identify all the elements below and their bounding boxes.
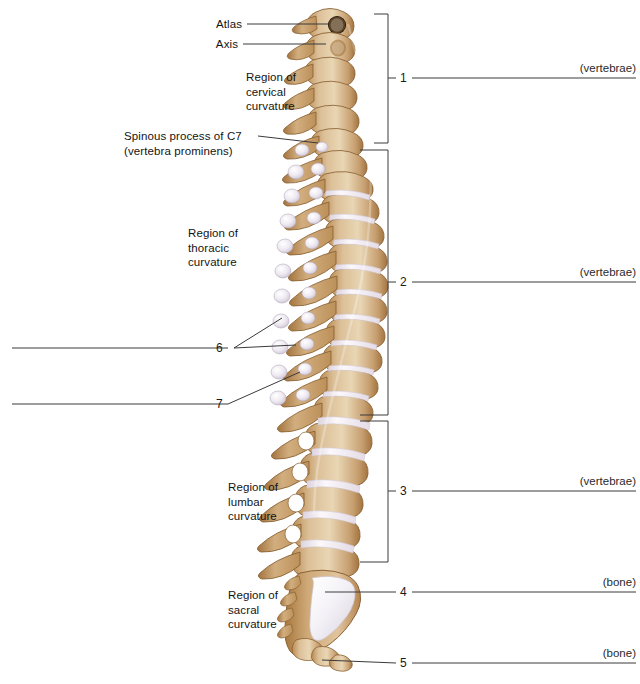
hint-2-vertebrae: (vertebrae) <box>500 266 636 278</box>
label-sacral-line2: sacral <box>228 603 278 618</box>
label-sacral-curvature: Region of sacral curvature <box>228 588 278 632</box>
label-sacral-line1: Region of <box>228 588 278 603</box>
sacrum-coccyx <box>277 570 360 671</box>
label-lumbar-line1: Region of <box>228 480 278 495</box>
hint-5-bone: (bone) <box>500 647 636 659</box>
callout-number-5[interactable]: 5 <box>400 657 407 669</box>
label-sacral-line3: curvature <box>228 617 278 632</box>
callout-number-7[interactable]: 7 <box>216 398 223 410</box>
label-lumbar-line3: curvature <box>228 509 278 524</box>
callout-number-4[interactable]: 4 <box>400 586 407 598</box>
label-atlas: Atlas <box>150 17 242 32</box>
label-cervical-line1: Region of <box>246 70 296 85</box>
callout-number-2[interactable]: 2 <box>400 276 407 288</box>
callout-number-1[interactable]: 1 <box>400 72 407 84</box>
label-thoracic-line3: curvature <box>188 255 238 270</box>
label-cervical-line3: curvature <box>246 99 296 114</box>
label-spinous-process-c7: Spinous process of C7 (vertebra prominen… <box>124 129 258 158</box>
label-axis: Axis <box>150 37 238 52</box>
hint-4-bone: (bone) <box>500 576 636 588</box>
figure-canvas: Atlas Axis Region of cervical curvature … <box>0 0 640 684</box>
label-c7-line1: Spinous process of C7 <box>124 129 258 144</box>
label-thoracic-line1: Region of <box>188 226 238 241</box>
label-thoracic-line2: thoracic <box>188 241 238 256</box>
label-thoracic-curvature: Region of thoracic curvature <box>188 226 238 270</box>
bracket-1 <box>374 14 388 143</box>
callout-number-6[interactable]: 6 <box>216 342 223 354</box>
label-lumbar-curvature: Region of lumbar curvature <box>228 480 278 524</box>
hint-3-vertebrae: (vertebrae) <box>500 475 636 487</box>
hint-1-vertebrae: (vertebrae) <box>500 62 636 74</box>
label-cervical-curvature: Region of cervical curvature <box>246 70 296 114</box>
label-lumbar-line2: lumbar <box>228 495 278 510</box>
callout-number-3[interactable]: 3 <box>400 485 407 497</box>
label-c7-line2: (vertebra prominens) <box>124 144 258 159</box>
label-cervical-line2: cervical <box>246 85 296 100</box>
